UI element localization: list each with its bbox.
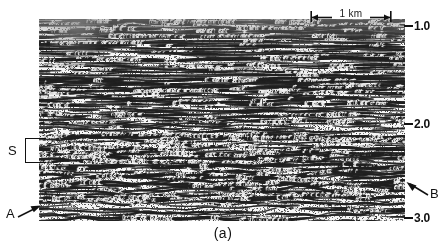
bracket-icon xyxy=(25,138,46,163)
seismic-data-panel xyxy=(39,19,405,221)
scale-bar-graphic xyxy=(310,7,392,23)
a-annotation: A xyxy=(6,200,46,226)
figure-caption: (a) xyxy=(0,225,446,241)
s-zone-label: S xyxy=(8,143,17,158)
figure-caption-text: (a) xyxy=(214,225,233,241)
time-tick-dash-icon xyxy=(404,123,413,125)
scale-right-arrow-icon xyxy=(384,14,391,20)
time-tick-label: 3.0 xyxy=(414,211,430,225)
time-tick-dash-icon xyxy=(404,25,413,27)
time-tick-label: 2.0 xyxy=(414,117,430,131)
scale-left-arrow-icon xyxy=(312,14,319,20)
time-tick-1: 1.0 xyxy=(404,19,430,33)
time-tick-dash-icon xyxy=(404,217,413,219)
a-annotation-label: A xyxy=(6,206,15,221)
arrow-up-left-icon xyxy=(404,178,432,204)
s-zone-marker: S xyxy=(8,136,46,166)
seismic-section-figure: 1 km 1.0 2.0 3.0 S A B (a) xyxy=(0,0,446,248)
time-tick-2: 2.0 xyxy=(404,117,430,131)
b-annotation-label: B xyxy=(430,186,439,201)
time-tick-label: 1.0 xyxy=(414,19,430,33)
arrow-up-right-icon xyxy=(16,200,46,226)
scale-bar: 1 km xyxy=(310,7,392,23)
b-annotation: B xyxy=(404,178,446,206)
seismic-wiggle-trace-canvas xyxy=(39,19,405,221)
time-tick-3: 3.0 xyxy=(404,211,430,225)
